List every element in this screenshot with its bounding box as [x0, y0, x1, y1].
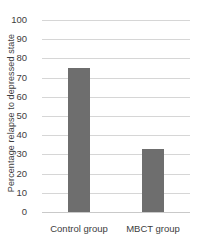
gridline	[42, 154, 190, 155]
gridline	[42, 97, 190, 98]
gridline	[42, 58, 190, 59]
y-axis-tick-label: 50	[0, 111, 27, 121]
y-axis-tick-label: 80	[0, 54, 27, 64]
x-axis-tick-label: Control group	[50, 224, 108, 234]
gridline	[42, 20, 190, 21]
plot-area: 0102030405060708090100	[42, 20, 190, 212]
gridline	[42, 174, 190, 175]
gridline	[42, 212, 190, 213]
gridline	[42, 39, 190, 40]
bar-chart: Percentage relapse to depressed state 01…	[0, 0, 200, 250]
y-axis-tick-label: 30	[0, 150, 27, 160]
y-axis-tick-label: 0	[0, 207, 27, 217]
gridline	[42, 78, 190, 79]
x-axis-tick-label: MBCT group	[126, 224, 180, 234]
gridline	[42, 193, 190, 194]
y-axis-tick-label: 10	[0, 188, 27, 198]
bar	[68, 68, 90, 212]
y-axis-tick-label: 20	[0, 169, 27, 179]
y-axis-tick-label: 90	[0, 34, 27, 44]
y-axis-tick-label: 70	[0, 73, 27, 83]
gridline	[42, 135, 190, 136]
y-axis-tick-label: 40	[0, 130, 27, 140]
gridline	[42, 116, 190, 117]
y-axis-tick-label: 60	[0, 92, 27, 102]
bar	[142, 149, 164, 212]
y-axis-tick-label: 100	[0, 15, 27, 25]
x-axis-ticks: Control groupMBCT group	[42, 224, 190, 244]
